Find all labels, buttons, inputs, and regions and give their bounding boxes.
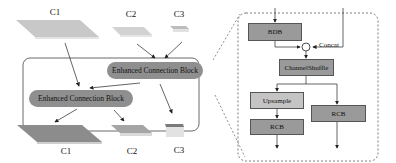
rcb-box-right: RCB [311,105,366,122]
output-layer-c3 [165,124,184,137]
concat-node [302,43,310,51]
output-layer-c1 [17,125,102,144]
concat-label: Concat [319,41,339,49]
input-layer-c2 [112,27,152,37]
upsample-box: Upsample [250,92,304,109]
bdb-box: BDB [248,23,302,41]
output-label-c2: C2 [127,146,138,156]
input-label-c1: C1 [50,7,61,17]
enhanced-connection-block-top: Enhanced Connection Block [107,62,203,79]
input-label-c2: C2 [126,9,137,19]
input-layer-c3 [170,26,189,32]
diagram-canvas [0,0,396,163]
input-label-c3: C3 [174,9,185,19]
output-label-c1: C1 [61,146,72,156]
output-layer-c2 [111,125,152,136]
output-label-c3: C3 [174,145,185,155]
input-layer-c1 [16,20,99,39]
rcb-box-left: RCB [250,119,304,135]
enhanced-connection-block-bottom: Enhanced Connection Block [29,90,133,107]
channel-shuffle-box: ChannelShuffle [279,59,334,76]
